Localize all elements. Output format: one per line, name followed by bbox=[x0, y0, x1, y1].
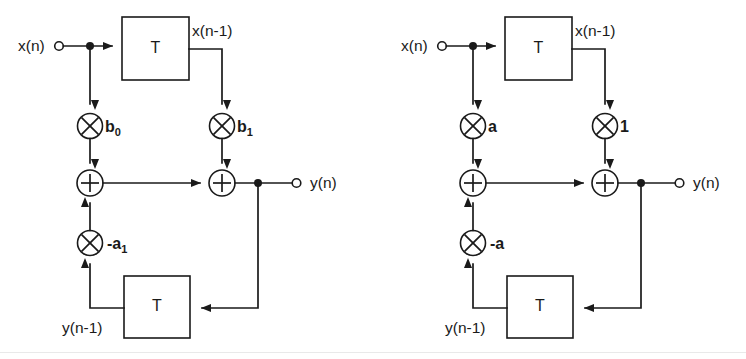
delayed-output-label-left: y(n-1) bbox=[62, 319, 102, 336]
multiplier-a-right[interactable] bbox=[461, 114, 486, 139]
wire-yn1-left bbox=[90, 264, 124, 308]
page-edge-artifact bbox=[0, 352, 746, 353]
coefficient-label-na1-left: -a1 bbox=[107, 235, 127, 255]
wire-feedback-to-delay-left bbox=[202, 183, 258, 308]
output-terminal-right[interactable] bbox=[675, 179, 684, 188]
multiplier-b0-left[interactable] bbox=[78, 114, 103, 139]
delayed-input-label-left: x(n-1) bbox=[192, 22, 232, 39]
delayed-output-label-right: y(n-1) bbox=[445, 319, 485, 336]
coefficient-label-na-right: -a bbox=[490, 235, 504, 252]
adder-right-1[interactable] bbox=[460, 170, 486, 196]
multiplier-b1-left[interactable] bbox=[210, 114, 235, 139]
input-label-right: x(n) bbox=[401, 37, 428, 54]
delay-block-top-label-right: T bbox=[534, 39, 544, 56]
adder-left-2[interactable] bbox=[209, 170, 235, 196]
input-label-left: x(n) bbox=[18, 37, 45, 54]
input-terminal-right[interactable] bbox=[438, 42, 447, 51]
wire-xn1-left bbox=[189, 49, 222, 104]
wire-feedback-to-delay-right bbox=[585, 183, 641, 308]
output-label-left: y(n) bbox=[310, 174, 337, 191]
wire-xn1-right bbox=[572, 49, 605, 104]
coefficient-label-a-right: a bbox=[488, 118, 497, 135]
input-terminal-left[interactable] bbox=[55, 42, 64, 51]
diagram-left: x(n) T x(n-1) b0 bbox=[18, 17, 337, 338]
adder-right-2[interactable] bbox=[592, 170, 618, 196]
diagram-right: x(n) T x(n-1) a 1 bbox=[401, 17, 720, 338]
multiplier-na-right[interactable] bbox=[461, 231, 486, 256]
output-label-right: y(n) bbox=[693, 174, 720, 191]
coefficient-label-b1-left: b1 bbox=[237, 118, 253, 138]
block-diagram-svg: x(n) T x(n-1) b0 bbox=[0, 0, 746, 359]
multiplier-na1-left[interactable] bbox=[78, 231, 103, 256]
delay-block-top-label-left: T bbox=[151, 39, 161, 56]
coefficient-label-b0-left: b0 bbox=[105, 118, 121, 138]
delay-block-bottom-label-right: T bbox=[535, 297, 545, 314]
figure-canvas: x(n) T x(n-1) b0 bbox=[0, 0, 746, 359]
multiplier-one-right[interactable] bbox=[593, 114, 618, 139]
adder-left-1[interactable] bbox=[77, 170, 103, 196]
coefficient-label-one-right: 1 bbox=[620, 118, 629, 135]
wire-yn1-right bbox=[473, 264, 507, 308]
delayed-input-label-right: x(n-1) bbox=[575, 22, 615, 39]
delay-block-bottom-label-left: T bbox=[152, 297, 162, 314]
output-terminal-left[interactable] bbox=[292, 179, 301, 188]
